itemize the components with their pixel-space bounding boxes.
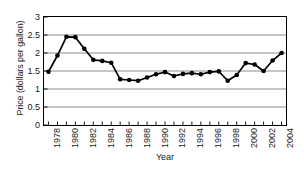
x-axis-tick-labels: 1978198019821984198619881990199219941996…	[43, 128, 289, 168]
x-tick-label: 1980	[70, 128, 80, 148]
data-point	[109, 60, 114, 65]
chart-canvas	[44, 17, 286, 125]
data-point	[154, 72, 159, 77]
x-tick-label: 1986	[124, 128, 134, 148]
x-axis-title: Year	[43, 152, 287, 162]
data-point	[163, 70, 168, 75]
data-point	[172, 74, 177, 79]
data-point	[136, 78, 141, 83]
y-axis-tick-labels: 32.521.510.50	[18, 0, 40, 172]
data-point	[199, 72, 204, 77]
plot-area	[43, 16, 287, 126]
data-point	[55, 53, 60, 58]
x-tick-label: 2000	[249, 128, 259, 148]
data-point	[225, 78, 230, 83]
y-tick-label: 3	[35, 13, 40, 22]
x-tick-label: 1998	[231, 128, 241, 148]
x-tick-label: 2002	[267, 128, 277, 148]
x-tick-label: 2004	[285, 128, 295, 148]
data-point	[181, 72, 186, 77]
data-point	[243, 61, 248, 66]
x-tick-label: 1978	[52, 128, 62, 148]
data-point	[145, 75, 150, 80]
data-point	[261, 69, 266, 74]
x-tick-label: 1984	[106, 128, 116, 148]
y-tick-label: 2	[35, 49, 40, 58]
x-tick-label: 1994	[195, 128, 205, 148]
data-point	[252, 62, 257, 67]
data-point	[279, 51, 284, 56]
data-point	[100, 59, 105, 64]
y-tick-label: 2.5	[27, 31, 40, 40]
data-point	[82, 46, 87, 51]
x-tick-label: 1982	[88, 128, 98, 148]
y-tick-label: 0.5	[27, 103, 40, 112]
data-point	[64, 35, 69, 40]
data-point	[234, 73, 239, 78]
data-point	[73, 35, 78, 40]
data-point	[118, 77, 123, 82]
gasoline-price-chart: Price (dollars per gallon) 32.521.510.50…	[0, 0, 304, 172]
data-point	[216, 69, 221, 74]
data-point	[270, 58, 275, 63]
y-tick-label: 1	[35, 85, 40, 94]
y-tick-label: 0	[35, 121, 40, 130]
x-tick-label: 1996	[213, 128, 223, 148]
data-point	[91, 58, 96, 63]
y-tick-label: 1.5	[27, 67, 40, 76]
data-point	[208, 70, 213, 75]
x-tick-label: 1988	[142, 128, 152, 148]
data-point	[46, 69, 51, 74]
x-tick-label: 1990	[160, 128, 170, 148]
data-point	[190, 71, 195, 76]
data-point	[127, 78, 132, 83]
x-tick-label: 1992	[177, 128, 187, 148]
